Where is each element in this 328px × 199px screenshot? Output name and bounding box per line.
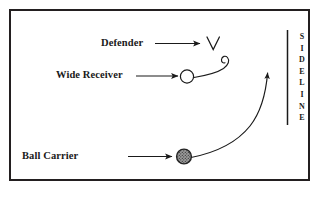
wide-receiver-label: Wide Receiver — [56, 70, 123, 81]
sideline-letter: I — [295, 89, 309, 101]
sideline-letter: E — [295, 112, 309, 124]
sideline-letter: S — [295, 31, 309, 43]
defender-label: Defender — [101, 38, 143, 49]
defender-marker-icon — [207, 37, 219, 50]
diagram-graphics — [0, 0, 328, 199]
wide-receiver-marker-icon — [180, 70, 193, 83]
wide-receiver-route-path — [194, 56, 229, 77]
sideline-letter: E — [295, 66, 309, 78]
sideline-letter: D — [295, 54, 309, 66]
sideline-letter: I — [295, 43, 309, 55]
sideline-letter: L — [295, 77, 309, 89]
play-diagram: Defender Wide Receiver Ball Carrier S I … — [0, 0, 328, 199]
sideline-label: S I D E L I N E — [295, 31, 309, 124]
ball-carrier-label: Ball Carrier — [22, 151, 78, 162]
sideline-letter: N — [295, 101, 309, 113]
ball-carrier-marker-icon — [177, 149, 192, 164]
ball-carrier-route-path — [191, 73, 268, 158]
